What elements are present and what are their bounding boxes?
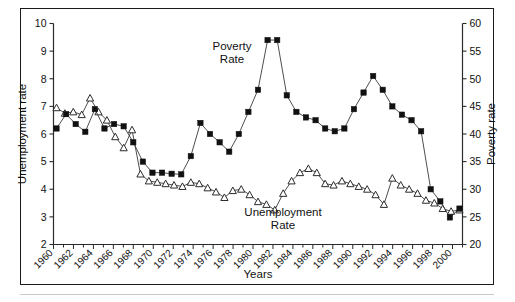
poverty-series-marker (159, 170, 164, 175)
y-tick-label-right: 60 (470, 17, 482, 29)
y-tick-label-left: 7 (41, 100, 47, 112)
poverty-series-marker (332, 129, 337, 134)
poverty-series-marker (284, 93, 289, 98)
x-tick-label: 1972 (151, 247, 175, 271)
x-tick-label: 1992 (351, 247, 375, 271)
poverty-series-marker (73, 121, 78, 126)
poverty-series-marker (438, 199, 443, 204)
x-tick-label: 1996 (391, 247, 415, 271)
x-tick-label: 1966 (91, 247, 115, 271)
unemployment-series-marker (414, 190, 421, 197)
unemployment-series-marker (305, 165, 312, 172)
poverty-series-marker (428, 187, 433, 192)
unemployment-series-marker (112, 133, 119, 140)
y-tick-label-right: 40 (470, 128, 482, 140)
x-tick-label: 1994 (371, 247, 395, 271)
unemployment-series-marker (86, 94, 93, 101)
unemployment-series-marker (128, 126, 135, 133)
svg-text:Rate: Rate (271, 219, 295, 231)
unemployment-series-marker (137, 170, 144, 177)
y-tick-label-right: 20 (470, 238, 482, 250)
unemployment-series-marker (187, 179, 194, 186)
x-tick-label: 1998 (410, 247, 434, 271)
y-tick-label-left: 3 (41, 211, 47, 223)
unemployment-series-marker (364, 186, 371, 193)
svg-text:Rate: Rate (220, 53, 244, 65)
svg-text:Unemployment: Unemployment (244, 206, 322, 218)
x-tick-label: 1968 (111, 247, 135, 271)
poverty-series-marker (399, 112, 404, 117)
poverty-series-marker (121, 124, 126, 129)
unemployment-series-marker (313, 169, 320, 176)
poverty-series-marker (409, 117, 414, 122)
unemployment-series-marker (280, 190, 287, 197)
poverty-series-marker (131, 140, 136, 145)
y-tick-label-right: 30 (470, 183, 482, 195)
poverty-series-marker (92, 106, 97, 111)
y-tick-label-right: 50 (470, 73, 482, 85)
unemployment-series-marker (338, 177, 345, 184)
poverty-series-marker (236, 131, 241, 136)
poverty-series-marker (361, 90, 366, 95)
unemployment-series-marker (204, 184, 211, 191)
y-tick-label-left: 5 (41, 155, 47, 167)
y-tick-label-left: 9 (41, 45, 47, 57)
poverty-series-marker (227, 149, 232, 154)
poverty-series-marker (207, 131, 212, 136)
poverty-series-marker (179, 172, 184, 177)
unemployment-series-marker (70, 108, 77, 115)
poverty-series-marker (198, 120, 203, 125)
x-tick-label: 2000 (430, 247, 454, 271)
poverty-series-marker (303, 115, 308, 120)
poverty-series-marker (380, 87, 385, 92)
poverty-series-marker (265, 37, 270, 42)
y-tick-label-left: 6 (41, 128, 47, 140)
unemployment-series-marker (78, 111, 85, 118)
poverty-series-marker (63, 111, 68, 116)
x-tick-label: 1970 (131, 247, 155, 271)
poverty-series-marker (188, 153, 193, 158)
y-tick-label-right: 45 (470, 100, 482, 112)
unemployment-series-marker (212, 188, 219, 195)
figure-root: 2345678910202530354045505560196019621964… (0, 0, 515, 302)
poverty-series-marker (351, 106, 356, 111)
x-tick-label: 1988 (311, 247, 335, 271)
poverty-series-marker (418, 129, 423, 134)
x-tick-label: 1976 (191, 247, 215, 271)
x-tick-label: 1986 (291, 247, 315, 271)
svg-text:Poverty: Poverty (213, 40, 252, 52)
unemployment-series-marker (431, 199, 438, 206)
poverty-series-marker (140, 159, 145, 164)
poverty-series-marker (370, 73, 375, 78)
poverty-series-marker (457, 206, 462, 211)
x-tick-label: 1978 (211, 247, 235, 271)
x-tick-label: 1990 (331, 247, 355, 271)
y-tick-label-left: 10 (35, 17, 47, 29)
x-tick-label: 1960 (31, 247, 55, 271)
poverty-series-marker (342, 126, 347, 131)
poverty-series-marker (150, 170, 155, 175)
poverty-series-marker (217, 140, 222, 145)
unemployment-series-marker (406, 186, 413, 193)
poverty-series-marker (447, 215, 452, 220)
poverty-series-marker (255, 87, 260, 92)
x-tick-label: 1984 (271, 247, 295, 271)
y-tick-label-right: 35 (470, 155, 482, 167)
poverty-series-marker (111, 121, 116, 126)
poverty-series-marker (274, 37, 279, 42)
poverty-series-line (57, 40, 460, 217)
x-tick-label: 1974 (171, 247, 195, 271)
poverty-series-marker (294, 109, 299, 114)
x-axis-title: Years (244, 268, 273, 280)
poverty-series (54, 37, 462, 220)
poverty-series-marker (169, 171, 174, 176)
poverty-series-marker (54, 126, 59, 131)
poverty-series-marker (313, 117, 318, 122)
unemployment-series-marker (246, 191, 253, 198)
poverty-series-marker (102, 126, 107, 131)
poverty-series-marker (322, 126, 327, 131)
unemployment-rate-label: UnemploymentRate (244, 206, 322, 231)
poverty-rate-label: PovertyRate (213, 40, 252, 65)
poverty-series-marker (390, 104, 395, 109)
unemployment-series-marker (372, 191, 379, 198)
